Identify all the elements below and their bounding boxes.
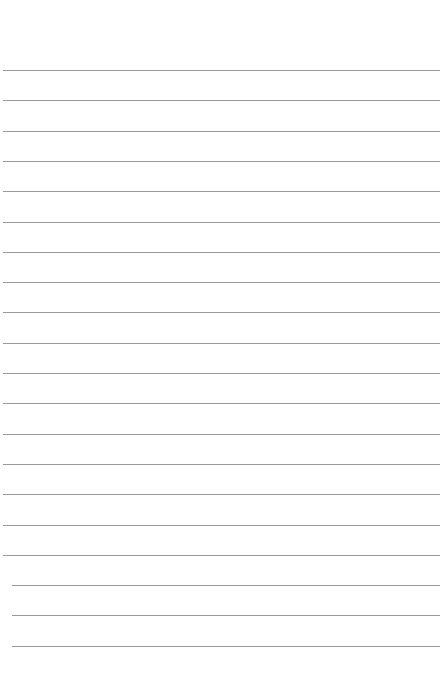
ruled-line <box>3 312 440 313</box>
ruled-line <box>3 464 440 465</box>
ruled-line <box>3 373 440 374</box>
ruled-line <box>3 100 440 101</box>
ruled-line <box>12 585 440 586</box>
ruled-line <box>3 343 440 344</box>
ruled-line <box>3 252 440 253</box>
ruled-line <box>3 222 440 223</box>
ruled-line <box>3 434 440 435</box>
ruled-line <box>3 161 440 162</box>
ruled-line <box>12 615 440 616</box>
ruled-line <box>3 494 440 495</box>
ruled-line <box>3 525 440 526</box>
ruled-line <box>3 555 440 556</box>
ruled-line <box>3 131 440 132</box>
ruled-line <box>3 403 440 404</box>
ruled-line <box>3 191 440 192</box>
ruled-line <box>3 282 440 283</box>
ruled-line <box>12 646 440 647</box>
ruled-line <box>3 70 440 71</box>
